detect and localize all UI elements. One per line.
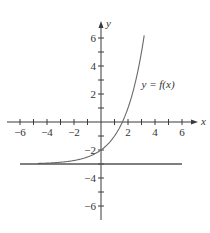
y-tick-label: 6 — [91, 32, 97, 44]
y-tick-label: 2 — [91, 88, 97, 100]
x-axis-label: x — [200, 115, 206, 127]
x-tick-label: 6 — [179, 126, 185, 138]
x-tick-label: −6 — [14, 126, 26, 138]
function-graph: x y −6−4−2246642−2−4−6 y = f(x) — [0, 0, 210, 233]
x-tick-label: −2 — [68, 126, 80, 138]
y-axis-arrow-icon — [99, 21, 104, 28]
y-tick-label: −4 — [84, 172, 96, 184]
x-tick-label: 2 — [125, 126, 131, 138]
x-axis-arrow-icon — [191, 120, 198, 125]
function-label: y = f(x) — [141, 78, 175, 91]
y-tick-label: 4 — [91, 60, 97, 72]
x-tick-label: −4 — [41, 126, 53, 138]
y-axis-label: y — [105, 17, 111, 29]
x-tick-label: 4 — [152, 126, 158, 138]
y-tick-label: −6 — [84, 200, 96, 212]
